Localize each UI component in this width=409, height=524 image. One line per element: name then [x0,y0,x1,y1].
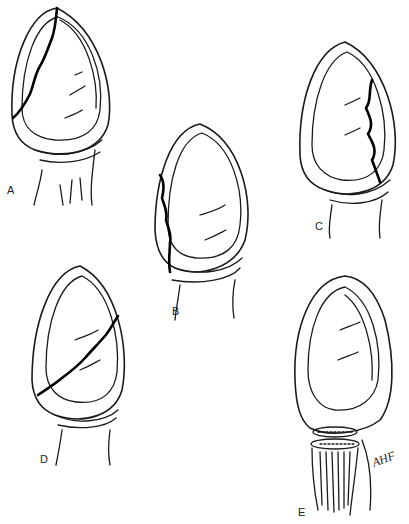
panel-label-d: D [40,453,48,465]
panel-label-b: B [172,305,179,317]
panel-a-drawing [12,8,110,205]
panel-c-drawing [300,42,396,238]
panel-label-e: E [298,506,305,518]
panel-b-drawing [155,124,248,320]
panel-e-drawing [295,276,392,515]
figure-canvas: A B C D E AHF [0,0,409,524]
panel-d-drawing [32,266,124,465]
panel-label-a: A [7,184,14,196]
illustration [0,0,409,524]
panel-label-c: C [315,220,323,232]
